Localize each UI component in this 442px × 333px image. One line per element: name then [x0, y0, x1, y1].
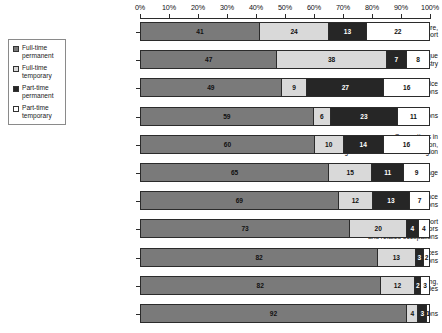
bar-segment-ftt: 15: [328, 164, 371, 181]
bar-segment-value: 23: [360, 113, 367, 120]
bar-segment-value: 92: [270, 310, 277, 317]
bar-segment-value: 1: [426, 310, 429, 317]
bar-segment-value: 69: [236, 197, 243, 204]
bar-segment-ftp: 41: [141, 23, 259, 40]
bar-segment-ptt: 16: [383, 136, 429, 153]
bar-segment-value: 4: [410, 310, 414, 317]
bar-segment-value: 2: [416, 282, 420, 289]
bar-segment-value: 15: [347, 169, 354, 176]
stacked-bar: 821223: [140, 276, 430, 295]
bar-segment-ftt: 10: [314, 136, 343, 153]
bar-segment-value: 3: [418, 254, 422, 261]
bar-segment-value: 13: [387, 197, 394, 204]
bar-segment-ptt: 9: [403, 164, 429, 181]
bar-segment-ptp: 7: [386, 51, 406, 68]
bar-segment-value: 20: [374, 225, 381, 232]
bar-segment-value: 49: [207, 84, 214, 91]
bar-segment-ftt: 38: [276, 51, 385, 68]
bar-segment-value: 82: [255, 254, 262, 261]
bar-segment-value: 27: [342, 84, 349, 91]
bar-segment-value: 38: [328, 56, 335, 63]
bar-segment-ptp: 3: [417, 305, 426, 322]
bar-segment-ftt: 6: [313, 108, 330, 125]
bar-segment-ftt: 20: [349, 220, 406, 237]
bar-segment-value: 3: [423, 282, 427, 289]
bar-segment-value: 8: [416, 56, 420, 63]
stacked-bar: 732044: [140, 219, 430, 238]
x-axis-tick-label: 10%: [162, 3, 176, 12]
chart-row: Average6515119: [0, 163, 442, 182]
bar-segment-value: 12: [394, 282, 401, 289]
x-axis-tick-label: 0%: [135, 3, 145, 12]
bar-segment-value: 4: [422, 225, 426, 232]
bar-segment-ftp: 92: [141, 305, 406, 322]
stacked-bar: 4992716: [140, 78, 430, 97]
bar-segment-value: 13: [344, 28, 351, 35]
bar-segment-ftp: 49: [141, 79, 281, 96]
x-axis-tick-label: 90%: [394, 3, 408, 12]
bar-segment-value: 13: [393, 254, 400, 261]
bar-segment-value: 7: [395, 56, 399, 63]
x-axis-tick-label: 100%: [421, 3, 439, 12]
bar-segment-ftp: 65: [141, 164, 328, 181]
stacked-bar: 41241322: [140, 22, 430, 41]
bar-segment-ptp: 13: [328, 23, 365, 40]
bar-segment-ptp: 14: [343, 136, 383, 153]
bar-segment-ptp: 4: [406, 220, 417, 237]
stacked-bar: 6912137: [140, 191, 430, 210]
bar-segment-value: 11: [410, 113, 417, 120]
stacked-bar: 60101416: [140, 135, 430, 154]
bar-segment-value: 16: [403, 84, 410, 91]
bar-segment-ftp: 69: [141, 192, 338, 209]
stacked-bar: 473878: [140, 50, 430, 69]
bar-segment-ptt: 11: [397, 108, 429, 125]
bar-segment-value: 16: [403, 141, 410, 148]
bar-segment-ptt: 4: [418, 220, 429, 237]
x-axis-tick-label: 40%: [249, 3, 263, 12]
bar-segment-ptp: 13: [372, 192, 409, 209]
bar-segment-value: 14: [360, 141, 367, 148]
bar-segment-value: 11: [384, 169, 391, 176]
chart-row: Business, financeand administrative occu…: [0, 191, 442, 210]
bar-segment-ptp: 23: [330, 108, 397, 125]
stacked-bar: 6515119: [140, 163, 430, 182]
bar-segment-ftp: 82: [141, 249, 377, 266]
bar-segment-ptt: 3: [420, 277, 429, 294]
bar-segment-value: 59: [223, 113, 230, 120]
bar-segment-ptp: 3: [415, 249, 424, 266]
chart-row: Occupations in art, culture,recreation a…: [0, 22, 442, 41]
bar-segment-value: 10: [325, 141, 332, 148]
chart-row: Sales and serviceoccupations4992716: [0, 78, 442, 97]
bar-segment-ptt: 22: [366, 23, 429, 40]
bar-segment-value: 22: [394, 28, 401, 35]
chart-row: Occupations insocial science, education,…: [0, 135, 442, 154]
bar-segment-ftp: 73: [141, 220, 349, 237]
bar-segment-ftt: 24: [259, 23, 328, 40]
bar-segment-value: 65: [231, 169, 238, 176]
bar-segment-value: 7: [418, 197, 422, 204]
bar-segment-value: 82: [257, 282, 264, 289]
bar-segment-value: 12: [352, 197, 359, 204]
bar-segment-ptt: 2: [423, 249, 429, 266]
chart-row: Occupations uniqueto primary industry473…: [0, 50, 442, 69]
bar-segment-value: 4: [411, 225, 415, 232]
x-axis-tick-label: 30%: [220, 3, 234, 12]
bar-segment-ftp: 59: [141, 108, 313, 125]
bar-segment-ftp: 82: [141, 277, 380, 294]
bar-segment-ftp: 60: [141, 136, 314, 153]
bar-segment-value: 47: [205, 56, 212, 63]
x-axis-tick-label: 80%: [365, 3, 379, 12]
chart-row: Management occupations92431: [0, 304, 442, 323]
bar-segment-ptp: 27: [306, 79, 383, 96]
bar-segment-value: 60: [224, 141, 231, 148]
bar-segment-value: 3: [420, 310, 424, 317]
x-axis-tick-label: 50%: [278, 3, 292, 12]
bar-segment-ptt: 16: [383, 79, 429, 96]
bar-segment-ftp: 47: [141, 51, 276, 68]
bar-segment-ftt: 13: [377, 249, 414, 266]
chart-row: Occupations unique to processing,manufac…: [0, 276, 442, 295]
x-axis-tick-label: 70%: [336, 3, 350, 12]
bar-segment-ftt: 12: [338, 192, 372, 209]
bar-segment-value: 9: [415, 169, 419, 176]
bar-segment-value: 9: [292, 84, 296, 91]
